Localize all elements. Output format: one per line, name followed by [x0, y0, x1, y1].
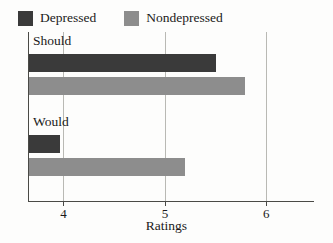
x-axis-title: Ratings	[0, 219, 333, 233]
legend-item-depressed: Depressed	[18, 11, 96, 26]
legend-swatch-nondepressed	[124, 11, 139, 26]
bar-would-depressed	[29, 135, 60, 153]
plot-area: ShouldWould 456	[28, 32, 314, 202]
category-label-would: Would	[33, 115, 69, 129]
category-label-should: Should	[33, 34, 71, 48]
chart-legend: Depressed Nondepressed	[18, 8, 223, 28]
bar-would-nondepressed	[29, 158, 185, 176]
plot-inner: ShouldWould	[29, 32, 314, 201]
bar-chart-figure: Depressed Nondepressed ShouldWould 456 R…	[0, 0, 333, 243]
legend-label-depressed: Depressed	[40, 11, 96, 25]
legend-label-nondepressed: Nondepressed	[146, 11, 222, 25]
legend-swatch-depressed	[18, 11, 33, 26]
gridline-6	[266, 32, 267, 201]
legend-item-nondepressed: Nondepressed	[124, 11, 222, 26]
bar-should-depressed	[29, 54, 216, 72]
bar-should-nondepressed	[29, 77, 245, 95]
